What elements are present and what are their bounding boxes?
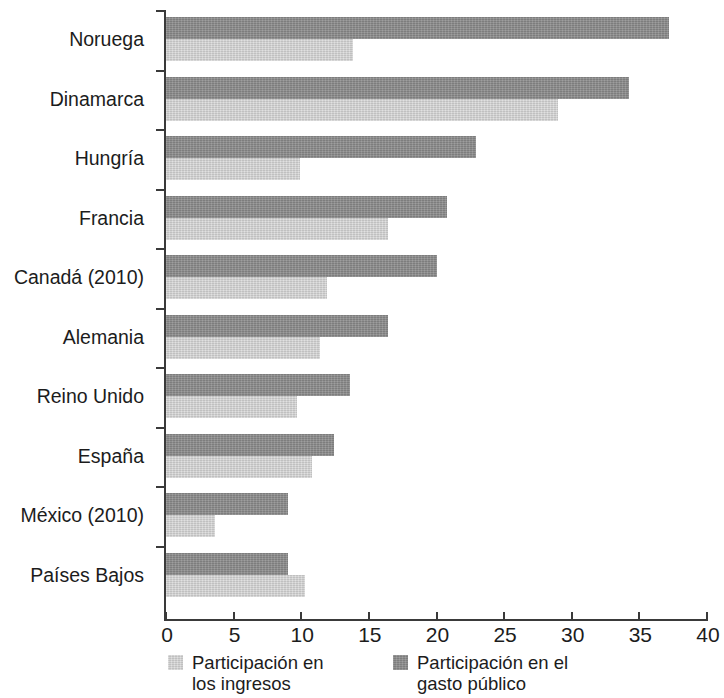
category-label: Noruega — [0, 28, 144, 50]
bar-gasto-publico — [166, 255, 437, 277]
y-axis-tick — [156, 129, 166, 131]
bar-gasto-publico — [166, 434, 334, 456]
bar-gasto-publico — [166, 374, 350, 396]
bar-ingresos — [166, 218, 388, 240]
x-axis-tick-label: 10 — [280, 623, 324, 647]
bar-gasto-publico — [166, 196, 447, 218]
bar-ingresos — [166, 39, 353, 61]
x-axis-tick — [638, 612, 640, 621]
x-axis-tick-label: 5 — [213, 623, 257, 647]
legend-item: Participación en el gasto público — [393, 652, 568, 694]
category-label: Alemania — [0, 326, 144, 348]
y-axis-tick — [156, 367, 166, 369]
y-axis-tick — [156, 70, 166, 72]
category-label: Canadá (2010) — [0, 266, 144, 288]
x-axis-tick-label: 40 — [686, 623, 724, 647]
y-axis-tick — [156, 486, 166, 488]
x-axis-tick-label: 15 — [348, 623, 392, 647]
y-axis-tick — [156, 427, 166, 429]
category-label: Hungría — [0, 147, 144, 169]
x-axis-tick — [571, 612, 573, 621]
legend-swatch-icon — [393, 655, 408, 670]
bar-ingresos — [166, 575, 305, 597]
bar-ingresos — [166, 515, 215, 537]
category-label: Francia — [0, 207, 144, 229]
bar-ingresos — [166, 456, 312, 478]
bar-gasto-publico — [166, 77, 629, 99]
x-axis-tick — [503, 612, 505, 621]
bar-ingresos — [166, 99, 558, 121]
category-label: España — [0, 445, 144, 467]
category-label: Reino Unido — [0, 385, 144, 407]
y-axis-tick — [156, 248, 166, 250]
y-axis-tick — [156, 308, 166, 310]
bar-ingresos — [166, 396, 297, 418]
y-axis-tick — [156, 546, 166, 548]
category-label: Países Bajos — [0, 564, 144, 586]
legend-item: Participación en los ingresos — [168, 652, 324, 694]
x-axis-tick-label: 20 — [416, 623, 460, 647]
plot-area — [166, 12, 707, 612]
bar-gasto-publico — [166, 553, 288, 575]
legend-swatch-icon — [168, 655, 183, 670]
y-axis-line — [164, 12, 166, 620]
category-label: Dinamarca — [0, 88, 144, 110]
x-axis-tick — [165, 612, 167, 621]
bar-gasto-publico — [166, 315, 388, 337]
chart-legend: Participación en los ingresosParticipaci… — [0, 652, 716, 698]
category-axis-labels: NoruegaDinamarcaHungríaFranciaCanadá (20… — [0, 0, 156, 610]
legend-label: Participación en el gasto público — [417, 652, 568, 694]
x-axis-tick-label: 0 — [145, 623, 189, 647]
x-axis-tick-label: 35 — [618, 623, 662, 647]
bar-gasto-publico — [166, 17, 669, 39]
bar-ingresos — [166, 337, 320, 359]
x-axis-tick-label: 25 — [483, 623, 527, 647]
bar-gasto-publico — [166, 493, 288, 515]
x-axis-tick — [436, 612, 438, 621]
y-axis-tick — [156, 10, 166, 12]
category-label: México (2010) — [0, 504, 144, 526]
bar-ingresos — [166, 158, 300, 180]
y-axis-tick — [156, 189, 166, 191]
legend-label: Participación en los ingresos — [192, 652, 324, 694]
x-axis-tick-label: 30 — [551, 623, 595, 647]
x-axis-tick — [706, 612, 708, 621]
x-axis-tick — [233, 612, 235, 621]
bar-gasto-publico — [166, 136, 476, 158]
x-axis-tick — [300, 612, 302, 621]
bar-ingresos — [166, 277, 327, 299]
x-axis-tick — [368, 612, 370, 621]
